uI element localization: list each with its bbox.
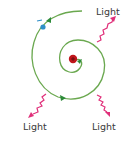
light-arrowhead-bottom-right-icon [105,112,110,117]
spiral-canvas [0,0,126,141]
electron-spiral-path [32,11,105,99]
light-wave-bottom-left-icon [33,94,46,114]
light-arrowhead-bottom-left-icon [28,112,34,118]
light-wave-bottom-right-icon [97,95,107,112]
light-label-bottom-left: Light [23,122,47,132]
electron-icon [40,24,45,29]
electron-spiral-diagram: Light Light Light [0,0,126,141]
light-label-bottom-right: Light [92,122,116,132]
light-label-top-right: Light [96,7,120,17]
arrow-bottom-icon [60,95,66,101]
light-wave-top-right-icon [97,19,113,42]
electron-minus-sign [37,20,42,21]
